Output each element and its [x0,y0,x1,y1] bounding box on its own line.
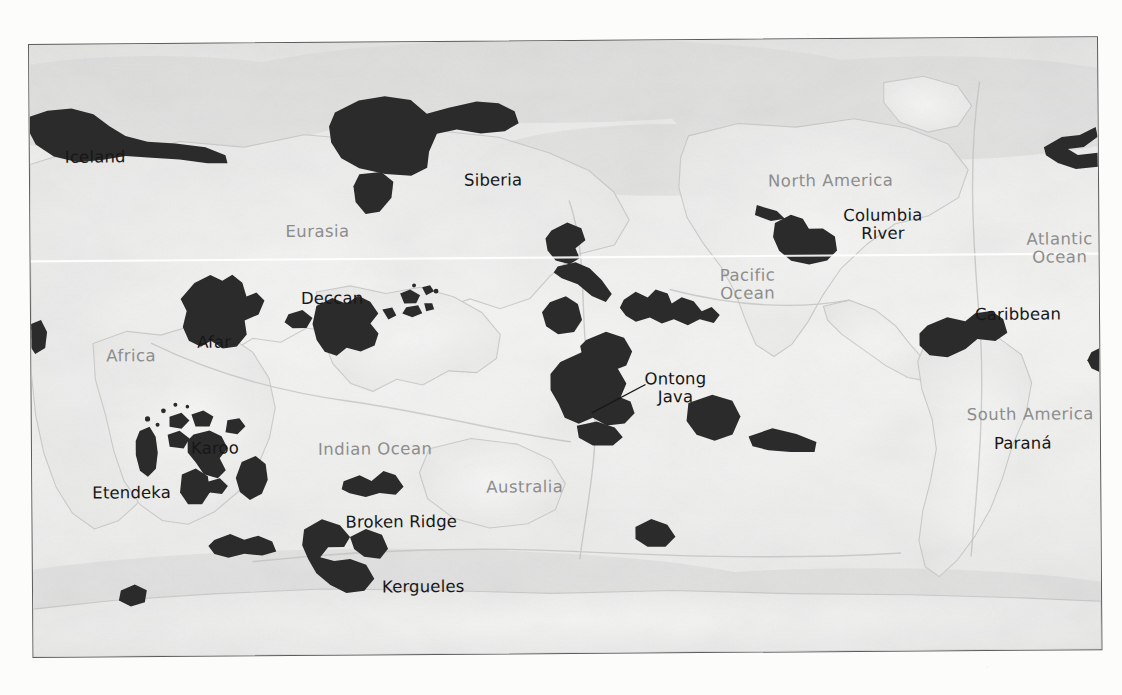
ontong-java-leader-line [588,384,652,416]
world-map-frame: Eurasia North America Pacific Ocean Atla… [28,36,1102,658]
map-basemap [29,37,1101,657]
page-background: Eurasia North America Pacific Ocean Atla… [0,0,1122,695]
